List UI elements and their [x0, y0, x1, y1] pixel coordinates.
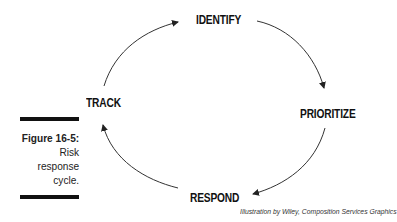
caption-line: Risk [22, 145, 79, 159]
caption-line: cycle. [22, 173, 79, 187]
arrow-track-to-identify [104, 22, 178, 86]
arrow-respond-to-track [103, 125, 178, 188]
arrow-identify-to-prioritize [257, 21, 324, 88]
node-track: TRACK [86, 96, 121, 110]
node-identify: IDENTIFY [196, 13, 241, 27]
caption-top-rule [20, 117, 79, 121]
arrow-prioritize-to-respond [253, 128, 325, 194]
caption-line: response [22, 159, 79, 173]
node-prioritize: PRIORITIZE [300, 107, 356, 121]
node-respond: RESPOND [190, 191, 239, 205]
caption-bottom-rule [20, 195, 79, 199]
caption-title: Figure 16-5: [22, 131, 79, 145]
figure-caption: Figure 16-5: Risk response cycle. [22, 131, 79, 187]
illustration-credit: Illustration by Wiley, Composition Servi… [240, 207, 397, 216]
